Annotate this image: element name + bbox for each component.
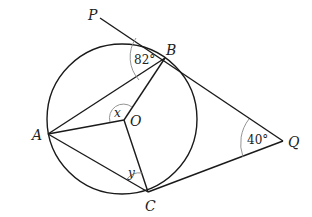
chord-AC <box>48 134 148 192</box>
tangent-line-PQ <box>100 18 283 141</box>
label-Q: Q <box>288 134 300 150</box>
angle-label-82: 82° <box>134 53 155 67</box>
angle-label-x: x <box>114 106 121 120</box>
label-O: O <box>130 113 142 129</box>
label-C: C <box>145 198 156 214</box>
angle-label-y: y <box>127 166 135 180</box>
geometry-diagram: P B A O C Q 82° x y 40° <box>0 0 312 217</box>
tangent-line-CQ <box>148 141 283 192</box>
angle-label-40: 40° <box>247 133 268 147</box>
radius-OB <box>124 58 165 120</box>
label-B: B <box>165 42 176 58</box>
circle <box>47 44 197 194</box>
label-A: A <box>30 127 42 143</box>
label-P: P <box>87 7 98 23</box>
radius-OC <box>124 120 148 192</box>
